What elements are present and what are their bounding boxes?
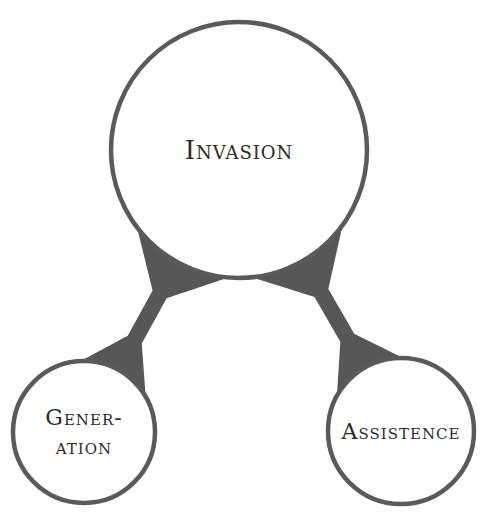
node-generation: Gener-ation — [13, 361, 155, 503]
node-label-generation: ation — [55, 434, 112, 459]
nodes: InvasionGener-ationAssistence — [13, 22, 474, 504]
diagram-canvas: InvasionGener-ationAssistence — [0, 0, 488, 524]
node-label-assistence: Assistence — [341, 419, 461, 444]
node-label-generation: Gener- — [45, 405, 122, 430]
node-invasion: Invasion — [111, 22, 367, 278]
node-assistence: Assistence — [328, 358, 474, 504]
node-circle-generation — [13, 361, 155, 503]
node-label-invasion: Invasion — [185, 135, 294, 165]
